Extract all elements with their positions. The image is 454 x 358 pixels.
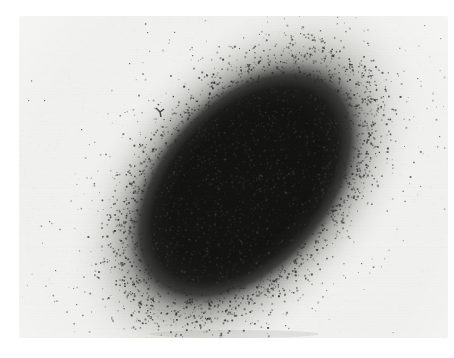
photo-frame (19, 16, 448, 338)
page (0, 0, 454, 358)
galaxy-negative-photo-canvas (19, 16, 448, 338)
